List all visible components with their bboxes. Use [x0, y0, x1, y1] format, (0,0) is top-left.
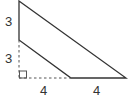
trapezoid-shape — [19, 1, 126, 78]
label-left-upper: 3 — [5, 14, 12, 29]
label-bottom-right: 4 — [93, 83, 100, 98]
label-left-lower: 3 — [5, 51, 12, 66]
right-angle-marker — [20, 71, 27, 78]
label-bottom-left: 4 — [40, 83, 47, 98]
trapezoid-diagram: 3 3 4 4 — [0, 0, 134, 98]
